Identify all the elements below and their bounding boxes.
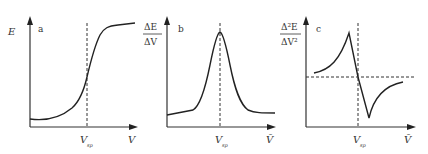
x-axis-arrow-icon — [129, 124, 138, 130]
titration-curves-figure: E a V sp V ΔE ΔV b V sp V̄ Δ²E ΔV² c V — [0, 0, 428, 154]
panel-label: a — [38, 24, 44, 34]
panel-c: Δ²E ΔV² c V sp V̄ — [280, 16, 416, 149]
y-axis-label: E — [7, 26, 16, 37]
y-axis-arrow-icon — [27, 16, 33, 25]
panel-b: ΔE ΔV b V sp V̄ — [143, 16, 276, 149]
y-axis-label-denominator: ΔV² — [281, 37, 298, 47]
first-derivative-curve — [167, 32, 275, 115]
y-axis-label-numerator: ΔE — [144, 22, 157, 32]
x-axis-label: V̄ — [266, 134, 275, 145]
marker-subscript: sp — [87, 142, 94, 149]
x-axis-label: V̄ — [404, 134, 413, 145]
y-axis-arrow-icon — [303, 16, 309, 25]
y-axis-label-numerator: Δ²E — [281, 22, 298, 32]
panel-label: c — [316, 24, 321, 34]
x-axis-arrow-icon — [267, 124, 276, 130]
y-axis-label-denominator: ΔV — [144, 37, 157, 47]
x-axis-arrow-icon — [407, 124, 416, 130]
panel-label: b — [178, 24, 184, 34]
panel-a: E a V sp V — [7, 16, 138, 149]
marker-subscript: sp — [222, 142, 229, 149]
x-axis-label: V — [128, 134, 137, 145]
titration-curve — [30, 23, 135, 120]
marker-subscript: sp — [360, 142, 367, 149]
y-axis-arrow-icon — [164, 16, 170, 25]
